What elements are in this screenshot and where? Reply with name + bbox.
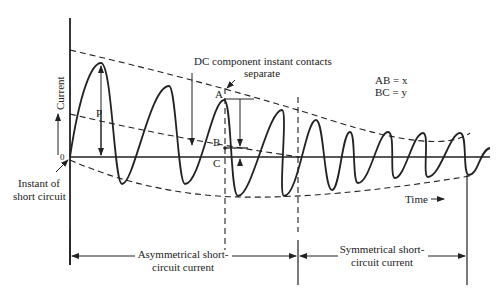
label-c: C (213, 157, 220, 169)
label-a: A (215, 88, 223, 100)
point-b (223, 146, 227, 150)
asym-label-line1: Asymmetrical short- (138, 248, 229, 260)
asym-label-line2: circuit current (152, 261, 214, 273)
lower-envelope (70, 160, 470, 197)
y-axis-label: Current (54, 76, 66, 110)
sym-label-line1: Symmetrical short- (340, 243, 425, 255)
annotation-line1: DC component instant contacts (194, 55, 332, 67)
annotation-pointer (227, 80, 235, 88)
sym-label-line2: circuit current (351, 256, 413, 268)
short-circuit-current-diagram: P A B C DC component instant contacts se… (0, 0, 503, 297)
x-axis-label: Time (405, 193, 428, 205)
legend-bc: BC = y (375, 86, 407, 98)
legend-ab: AB = x (375, 74, 408, 86)
annotation-line2: separate (244, 67, 280, 79)
label-b: B (213, 136, 220, 148)
label-p: P (96, 107, 102, 119)
instant-label-line1: Instant of (18, 177, 60, 189)
instant-label-line2: short circuit (13, 190, 66, 202)
origin-label: 0 (60, 152, 65, 162)
short-circuit-waveform (70, 63, 490, 196)
